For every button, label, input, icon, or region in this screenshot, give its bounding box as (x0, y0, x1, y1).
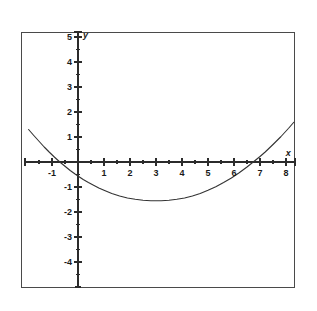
y-tick-label: -2 (56, 208, 72, 217)
y-axis-label: y (83, 31, 88, 40)
y-tick-label: -4 (56, 258, 72, 267)
x-tick-label: 7 (257, 169, 262, 178)
x-tick-label: 1 (101, 169, 106, 178)
y-tick-label: 5 (56, 33, 72, 42)
y-tick-label: 4 (56, 58, 72, 67)
y-tick-label: -3 (56, 233, 72, 242)
x-tick-label: 6 (231, 169, 236, 178)
x-tick-label: -1 (48, 169, 56, 178)
y-tick-label: -1 (56, 183, 72, 192)
x-tick-label: 3 (153, 169, 158, 178)
plot-frame-border (21, 32, 295, 288)
x-axis-label: x (286, 149, 291, 158)
y-tick-label: 1 (56, 133, 72, 142)
x-tick-label: 5 (205, 169, 210, 178)
x-tick-label: 2 (127, 169, 132, 178)
y-tick-label: 2 (56, 108, 72, 117)
graph-figure: -11234567854321-1-2-3-4 x y (0, 0, 317, 311)
x-tick-label: 4 (179, 169, 184, 178)
y-tick-label: 3 (56, 83, 72, 92)
x-tick-label: 8 (283, 169, 288, 178)
